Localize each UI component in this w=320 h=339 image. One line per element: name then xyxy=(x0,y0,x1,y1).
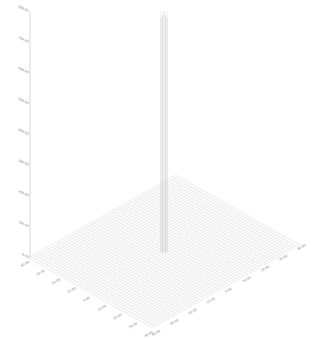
y-tick-label: 20.00 xyxy=(260,265,270,273)
x-tick-label: 0.00 xyxy=(82,296,90,303)
y-tick-label: -20.00 xyxy=(187,307,198,316)
x-tick-label: 20.00 xyxy=(113,313,123,321)
surface-plot: 0.00100.00200.00300.00400.00500.00600.00… xyxy=(0,0,320,339)
y-tick-label: 0.00 xyxy=(224,287,232,294)
x-tick-label: -20.00 xyxy=(50,277,61,286)
x-tick-label: -40.00 xyxy=(19,260,30,269)
z-tick-label: 300.00 xyxy=(17,158,29,166)
x-tick-label: 30.00 xyxy=(128,321,138,329)
z-tick-label: 700.00 xyxy=(17,35,29,43)
y-tick-label: 30.00 xyxy=(278,254,288,262)
x-tick-label: -10.00 xyxy=(66,286,77,295)
center-spike xyxy=(161,12,168,254)
x-tick-label: -30.00 xyxy=(35,269,46,278)
x-tick-label: 10.00 xyxy=(97,304,107,312)
y-tick-label: 10.00 xyxy=(242,275,252,283)
y-tick-label: -30.00 xyxy=(168,318,179,327)
y-tick-label: -40.00 xyxy=(150,329,161,338)
z-tick-label: 500.00 xyxy=(17,97,29,105)
z-tick-label: 400.00 xyxy=(17,128,29,136)
z-tick-label: 800.00 xyxy=(17,5,29,13)
y-tick-label: -10.00 xyxy=(205,297,216,306)
z-tick-label: 200.00 xyxy=(17,189,29,197)
z-tick-label: 100.00 xyxy=(17,220,29,228)
y-axis: -40.00-30.00-20.00-10.000.0010.0020.0030… xyxy=(150,243,306,337)
y-tick-label: 40.00 xyxy=(297,243,307,251)
z-tick-label: 600.00 xyxy=(17,66,29,74)
z-axis: 0.00100.00200.00300.00400.00500.00600.00… xyxy=(17,5,30,259)
